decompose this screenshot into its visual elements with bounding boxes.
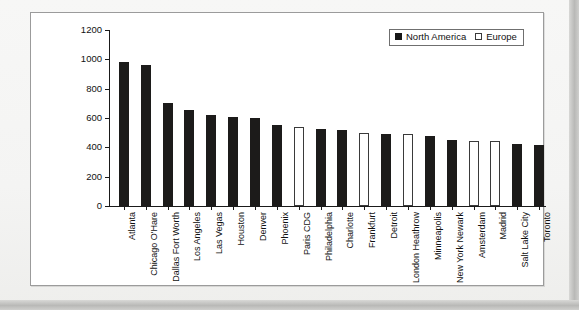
legend-label-europe: Europe (486, 32, 517, 42)
plot-area: 020040060080010001200 AtlantaChicago O'H… (109, 30, 546, 206)
chart-legend: North America Europe (389, 29, 524, 46)
x-tick-label: Atlanta (128, 212, 137, 240)
page-bottom-edge-shadow (0, 300, 579, 310)
y-tick-label: 800 (86, 84, 102, 94)
bar (184, 110, 194, 206)
bar (425, 136, 435, 206)
y-tick-label: 0 (97, 201, 102, 211)
x-tick-label: Las Vegas (215, 212, 224, 254)
legend-swatch-north-america-icon (395, 33, 402, 40)
x-tick (539, 206, 540, 210)
x-tick (233, 206, 234, 210)
x-axis-line (109, 206, 546, 207)
y-tick (105, 118, 109, 119)
x-tick (517, 206, 518, 210)
bar (447, 140, 457, 206)
bar (403, 134, 413, 206)
x-tick-label: Detroit (390, 212, 399, 239)
legend-swatch-europe-icon (475, 33, 482, 40)
x-tick-label: Los Angeles (193, 212, 202, 261)
x-tick-label: Philadelphia (325, 212, 334, 261)
x-tick (299, 206, 300, 210)
x-tick-label: London Heathrow (412, 212, 421, 283)
y-tick-label: 1200 (81, 25, 102, 35)
x-tick (452, 206, 453, 210)
x-tick (124, 206, 125, 210)
x-tick-label: Amsterdam (478, 212, 487, 258)
x-tick (474, 206, 475, 210)
bar (381, 134, 391, 206)
x-tick-label: Toronto (543, 212, 552, 242)
x-tick (321, 206, 322, 210)
bar (250, 118, 260, 206)
bar (141, 65, 151, 206)
y-tick (105, 30, 109, 31)
bar (359, 133, 369, 206)
x-tick-label: Charlotte (346, 212, 355, 249)
bar (316, 129, 326, 206)
x-tick (146, 206, 147, 210)
x-tick-label: Frankfurt (368, 212, 377, 248)
x-tick-label: Paris CDG (303, 212, 312, 255)
bar (534, 145, 544, 206)
x-tick (189, 206, 190, 210)
x-tick (277, 206, 278, 210)
scanned-page: Air transport movements (000s) 020040060… (0, 0, 579, 310)
x-tick (364, 206, 365, 210)
y-tick (105, 89, 109, 90)
chart-frame: Air transport movements (000s) 020040060… (30, 12, 544, 286)
x-tick (211, 206, 212, 210)
x-tick-label: Madrid (499, 212, 508, 240)
x-tick (408, 206, 409, 210)
y-tick (105, 206, 109, 207)
x-tick-label: New York Newark (456, 212, 465, 283)
bar (337, 130, 347, 206)
x-tick-label: Houston (237, 212, 246, 246)
bar (206, 115, 216, 206)
y-tick-label: 1000 (81, 55, 102, 65)
x-tick (495, 206, 496, 210)
x-tick-label: Chicago O'Hare (150, 212, 159, 276)
bar (272, 125, 282, 206)
bar (294, 127, 304, 206)
y-tick-label: 600 (86, 113, 102, 123)
legend-item-north-america: North America (395, 32, 466, 42)
x-tick (386, 206, 387, 210)
y-tick-label: 400 (86, 143, 102, 153)
x-tick (342, 206, 343, 210)
x-tick-label: Dallas Fort Worth (172, 212, 181, 282)
page-right-edge-shadow (569, 0, 579, 310)
x-tick-label: Denver (259, 212, 268, 241)
x-tick-label: Salt Lake City (521, 212, 530, 268)
x-tick (168, 206, 169, 210)
y-tick (105, 59, 109, 60)
x-tick (430, 206, 431, 210)
y-tick (105, 177, 109, 178)
bar (163, 103, 173, 206)
legend-label-north-america: North America (406, 32, 466, 42)
bar (119, 62, 129, 206)
bar (512, 144, 522, 206)
x-tick (255, 206, 256, 210)
bar (490, 141, 500, 206)
legend-item-europe: Europe (475, 32, 517, 42)
x-tick-label: Minneapolis (434, 212, 443, 260)
bar (469, 141, 479, 206)
y-axis-line (109, 30, 110, 206)
y-tick (105, 147, 109, 148)
x-tick-label: Phoenix (281, 212, 290, 245)
y-tick-label: 200 (86, 172, 102, 182)
bar (228, 117, 238, 206)
